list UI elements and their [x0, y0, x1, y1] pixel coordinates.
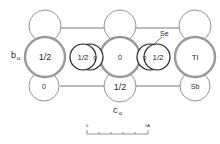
axis-label-c-sub: o	[119, 110, 123, 116]
label-mid-right: Tl	[192, 53, 199, 62]
scale-end-label: 5A	[145, 123, 150, 128]
crystal-structure-diagram: Se 1/2 1/2 0 0 0 1/2 Tl 0 1/2 Sb b o c o…	[0, 0, 220, 144]
axis-label-b-sub: o	[17, 55, 21, 61]
axis-label-b: b	[11, 50, 16, 60]
se-callout-line	[154, 37, 162, 44]
scale-start-label: 0	[86, 123, 89, 128]
scale-bar	[87, 130, 148, 134]
label-mid-left: 1/2	[39, 52, 52, 62]
label-se-left: 1/2	[77, 53, 89, 62]
label-mid-center: 0	[118, 54, 122, 61]
label-bot-right: Sb	[191, 83, 200, 90]
label-bot-center: 1/2	[114, 82, 127, 92]
axis-label-c: c	[113, 105, 118, 115]
label-bot-left: 0	[42, 83, 46, 90]
se-callout-label: Se	[160, 30, 169, 37]
label-se-right: 1/2	[152, 53, 164, 62]
